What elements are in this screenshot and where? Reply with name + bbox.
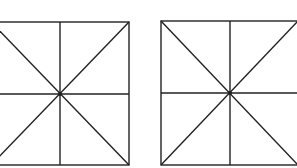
divided-square-left: [0, 22, 129, 165]
figure-canvas: [0, 0, 297, 168]
divided-square-right: [161, 21, 297, 165]
center-point: [229, 92, 232, 95]
center-point: [59, 93, 62, 96]
